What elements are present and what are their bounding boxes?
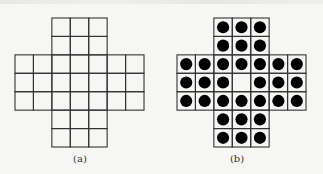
peg-icon (254, 76, 266, 88)
peg-icon (254, 132, 266, 144)
peg-icon (235, 40, 247, 52)
board-hole (107, 92, 125, 110)
peg-icon (254, 21, 266, 33)
peg-icon (199, 95, 211, 107)
peg-icon (254, 58, 266, 70)
board-a (15, 18, 144, 147)
board-hole (107, 55, 125, 73)
board-hole (33, 55, 51, 73)
peg-icon (254, 113, 266, 125)
board-hole (89, 129, 107, 147)
board-hole (33, 92, 51, 110)
caption-b: (b) (230, 153, 244, 164)
peg-icon (272, 58, 284, 70)
board-hole (70, 55, 88, 73)
board-hole (126, 92, 144, 110)
peg-icon (291, 58, 303, 70)
peg-icon (235, 58, 247, 70)
board-hole (89, 73, 107, 91)
peg-icon (291, 95, 303, 107)
board-hole (52, 55, 70, 73)
peg-icon (217, 113, 229, 125)
peg-icon (254, 95, 266, 107)
peg-icon (180, 58, 192, 70)
board-hole (52, 92, 70, 110)
board-hole (126, 55, 144, 73)
board-hole (70, 18, 88, 36)
peg-icon (291, 76, 303, 88)
peg-solitaire-figure (0, 0, 323, 174)
board-hole (52, 73, 70, 91)
board-hole (70, 73, 88, 91)
peg-icon (180, 95, 192, 107)
board-hole (89, 92, 107, 110)
board-hole (126, 73, 144, 91)
board-hole (107, 73, 125, 91)
peg-icon (254, 40, 266, 52)
board-hole (70, 129, 88, 147)
peg-icon (199, 76, 211, 88)
board-hole (33, 73, 51, 91)
peg-icon (235, 132, 247, 144)
peg-icon (217, 95, 229, 107)
board-hole (89, 110, 107, 128)
peg-icon (272, 76, 284, 88)
peg-icon (272, 95, 284, 107)
board-hole (232, 73, 250, 91)
board-hole (52, 36, 70, 54)
board-hole (15, 55, 33, 73)
peg-icon (217, 58, 229, 70)
peg-icon (180, 76, 192, 88)
peg-icon (235, 95, 247, 107)
board-hole (52, 18, 70, 36)
caption-a: (a) (73, 153, 87, 164)
peg-icon (235, 21, 247, 33)
peg-icon (217, 40, 229, 52)
board-hole (52, 110, 70, 128)
peg-icon (199, 58, 211, 70)
board-hole (70, 92, 88, 110)
peg-icon (217, 21, 229, 33)
peg-icon (217, 76, 229, 88)
board-b (177, 18, 306, 147)
board-hole (89, 55, 107, 73)
board-hole (70, 36, 88, 54)
board-hole (89, 36, 107, 54)
board-hole (15, 92, 33, 110)
board-hole (52, 129, 70, 147)
peg-icon (217, 132, 229, 144)
board-hole (70, 110, 88, 128)
peg-icon (235, 113, 247, 125)
board-hole (89, 18, 107, 36)
board-hole (15, 73, 33, 91)
